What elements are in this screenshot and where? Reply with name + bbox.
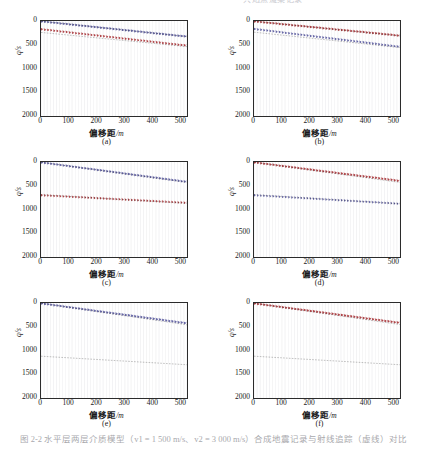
y-tick: 500 bbox=[3, 181, 37, 189]
y-tick: 1500 bbox=[3, 87, 37, 95]
x-tick: 100 bbox=[275, 398, 286, 407]
x-tick: 500 bbox=[388, 398, 399, 407]
x-tick: 500 bbox=[388, 116, 399, 125]
x-tick: 100 bbox=[62, 116, 73, 125]
panel-label-d: (d) bbox=[213, 278, 426, 287]
wiggle-plot-d bbox=[254, 162, 400, 257]
x-tick: 400 bbox=[360, 116, 371, 125]
figure-page: 共炮点道集记录 q/s05001000150020000100200300400… bbox=[0, 0, 427, 451]
dashed-reflected-ray bbox=[254, 195, 400, 204]
y-tick: 1500 bbox=[216, 228, 250, 236]
y-tick: 0 bbox=[216, 157, 250, 165]
x-tick: 100 bbox=[275, 116, 286, 125]
x-tick: 500 bbox=[175, 257, 186, 266]
y-tick: 1000 bbox=[216, 205, 250, 213]
x-tick: 100 bbox=[62, 398, 73, 407]
x-tick: 200 bbox=[91, 257, 102, 266]
panel-b: q/s05001000150020000100200300400500偏移距/m… bbox=[213, 8, 426, 149]
panel-a: q/s05001000150020000100200300400500偏移距/m… bbox=[0, 8, 213, 149]
plot-area-c bbox=[40, 161, 188, 258]
y-axis-ticks: 0500100015002000 bbox=[213, 302, 250, 397]
y-tick: 0 bbox=[216, 298, 250, 306]
y-axis-ticks: 0500100015002000 bbox=[0, 161, 37, 256]
y-axis-ticks: 0500100015002000 bbox=[0, 20, 37, 115]
y-tick: 2000 bbox=[3, 393, 37, 401]
dashed-reflected-ray bbox=[254, 356, 400, 365]
x-tick: 400 bbox=[147, 398, 158, 407]
y-tick: 1000 bbox=[216, 64, 250, 72]
x-tick: 0 bbox=[251, 116, 255, 125]
x-tick: 400 bbox=[147, 116, 158, 125]
y-axis-ticks: 0500100015002000 bbox=[213, 161, 250, 256]
figure-caption: 图 2-2 水平层两层介质模型（v1 = 1 500 m/s、v2 = 3 00… bbox=[0, 434, 427, 451]
x-tick: 400 bbox=[360, 257, 371, 266]
y-tick: 2000 bbox=[3, 111, 37, 119]
x-tick: 200 bbox=[91, 398, 102, 407]
panel-f: q/s05001000150020000100200300400500偏移距/m… bbox=[213, 290, 426, 431]
x-tick: 500 bbox=[388, 257, 399, 266]
wiggle-plot-c bbox=[41, 162, 187, 257]
plot-area-f bbox=[253, 302, 401, 399]
panel-d: q/s05001000150020000100200300400500偏移距/m… bbox=[213, 149, 426, 290]
y-tick: 1000 bbox=[3, 64, 37, 72]
y-tick: 1000 bbox=[3, 346, 37, 354]
dashed-reflected-ray bbox=[41, 32, 187, 46]
x-tick: 0 bbox=[251, 257, 255, 266]
panel-e: q/s05001000150020000100200300400500偏移距/m… bbox=[0, 290, 213, 431]
y-tick: 500 bbox=[216, 40, 250, 48]
x-tick: 300 bbox=[119, 257, 130, 266]
panel-label-b: (b) bbox=[213, 137, 426, 146]
x-tick: 200 bbox=[304, 257, 315, 266]
y-tick: 2000 bbox=[3, 252, 37, 260]
x-tick: 200 bbox=[304, 116, 315, 125]
cut-off-header-label: 共炮点道集记录 bbox=[243, 0, 303, 4]
y-tick: 0 bbox=[3, 157, 37, 165]
y-tick: 500 bbox=[3, 322, 37, 330]
y-tick: 1500 bbox=[3, 228, 37, 236]
x-tick: 300 bbox=[332, 116, 343, 125]
y-tick: 500 bbox=[216, 181, 250, 189]
y-tick: 1500 bbox=[216, 87, 250, 95]
x-tick: 0 bbox=[38, 257, 42, 266]
y-tick: 2000 bbox=[216, 111, 250, 119]
wiggle-plot-a bbox=[41, 21, 187, 116]
plot-area-b bbox=[253, 20, 401, 117]
x-tick: 0 bbox=[251, 398, 255, 407]
plot-area-a bbox=[40, 20, 188, 117]
wiggle-plot-e bbox=[41, 303, 187, 398]
dashed-reflected-ray bbox=[41, 195, 187, 204]
dashed-reflected-ray bbox=[254, 32, 400, 47]
plot-area-d bbox=[253, 161, 401, 258]
y-tick: 0 bbox=[216, 16, 250, 24]
panel-label-a: (a) bbox=[0, 137, 213, 146]
panel-label-c: (c) bbox=[0, 278, 213, 287]
x-tick: 300 bbox=[119, 116, 130, 125]
x-tick: 200 bbox=[304, 398, 315, 407]
y-axis-ticks: 0500100015002000 bbox=[0, 302, 37, 397]
x-tick: 300 bbox=[332, 398, 343, 407]
x-tick: 300 bbox=[119, 398, 130, 407]
y-tick: 0 bbox=[3, 16, 37, 24]
y-tick: 1000 bbox=[216, 346, 250, 354]
panel-label-f: (f) bbox=[213, 419, 426, 428]
y-tick: 500 bbox=[3, 40, 37, 48]
x-tick: 100 bbox=[62, 257, 73, 266]
x-tick: 100 bbox=[275, 257, 286, 266]
x-tick: 0 bbox=[38, 398, 42, 407]
dashed-reflected-ray bbox=[41, 356, 187, 365]
x-tick: 0 bbox=[38, 116, 42, 125]
y-tick: 0 bbox=[3, 298, 37, 306]
y-tick: 500 bbox=[216, 322, 250, 330]
panel-c: q/s05001000150020000100200300400500偏移距/m… bbox=[0, 149, 213, 290]
y-tick: 1000 bbox=[3, 205, 37, 213]
wiggle-plot-f bbox=[254, 303, 400, 398]
plot-area-e bbox=[40, 302, 188, 399]
x-tick: 400 bbox=[147, 257, 158, 266]
x-tick: 200 bbox=[91, 116, 102, 125]
panel-grid: q/s05001000150020000100200300400500偏移距/m… bbox=[0, 8, 427, 432]
y-tick: 2000 bbox=[216, 252, 250, 260]
y-tick: 2000 bbox=[216, 393, 250, 401]
y-tick: 1500 bbox=[216, 369, 250, 377]
x-tick: 500 bbox=[175, 398, 186, 407]
y-tick: 1500 bbox=[3, 369, 37, 377]
